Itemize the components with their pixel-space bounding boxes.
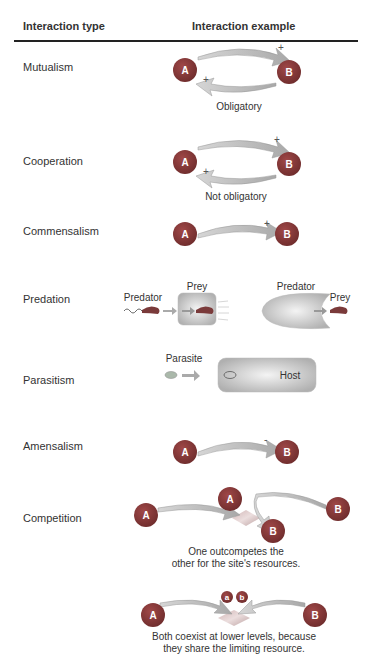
mutualism-diagram: A B + + Obligatory bbox=[173, 42, 301, 112]
svg-text:+: + bbox=[203, 166, 209, 177]
svg-text:+: + bbox=[278, 42, 284, 53]
svg-text:Predator: Predator bbox=[277, 281, 316, 292]
svg-text:A: A bbox=[181, 229, 188, 240]
svg-text:A: A bbox=[226, 494, 233, 505]
cooperation-diagram: A B + + Not obligatory bbox=[173, 134, 301, 202]
svg-text:Host: Host bbox=[280, 370, 301, 381]
svg-text:Both coexist at lower levels,: Both coexist at lower levels, because bbox=[152, 631, 316, 642]
commensalism-diagram: A B + bbox=[173, 218, 299, 246]
predation-diagram: Predator Prey Predator Prey bbox=[124, 281, 350, 329]
svg-text:Prey: Prey bbox=[187, 281, 208, 292]
competition-coexist-diagram: a b A B Both coexist at lower levels, be… bbox=[141, 591, 327, 654]
svg-text:A: A bbox=[181, 65, 188, 76]
svg-text:they share the limiting resour: they share the limiting resource. bbox=[163, 643, 305, 654]
svg-text:A: A bbox=[149, 610, 156, 621]
svg-text:A: A bbox=[142, 510, 149, 521]
svg-text:B: B bbox=[283, 229, 290, 240]
svg-text:Obligatory: Obligatory bbox=[216, 101, 262, 112]
svg-text:B: B bbox=[269, 526, 276, 537]
svg-text:B: B bbox=[311, 610, 318, 621]
svg-text:B: B bbox=[334, 504, 341, 515]
svg-text:A: A bbox=[181, 447, 188, 458]
svg-text:b: b bbox=[240, 593, 245, 602]
interaction-diagrams: A B + + Obligatory A B + + Not obligator… bbox=[0, 0, 370, 660]
competition-outcompete-diagram: A A B B One outcompetes the other for th… bbox=[134, 487, 350, 569]
svg-text:Prey: Prey bbox=[330, 292, 351, 303]
svg-text:B: B bbox=[283, 447, 290, 458]
parasitism-diagram: Parasite Host bbox=[165, 353, 316, 392]
svg-text:Not obligatory: Not obligatory bbox=[205, 191, 267, 202]
svg-text:-: - bbox=[264, 434, 267, 445]
amensalism-diagram: A B - bbox=[173, 434, 299, 464]
svg-text:Parasite: Parasite bbox=[166, 353, 203, 364]
svg-text:B: B bbox=[285, 67, 292, 78]
svg-text:a: a bbox=[225, 593, 230, 602]
svg-text:A: A bbox=[181, 157, 188, 168]
svg-text:+: + bbox=[203, 74, 209, 85]
svg-text:One outcompetes the: One outcompetes the bbox=[188, 546, 284, 557]
svg-text:B: B bbox=[285, 159, 292, 170]
svg-text:other for the site's resources: other for the site's resources. bbox=[172, 558, 301, 569]
svg-text:+: + bbox=[264, 218, 270, 229]
svg-text:Predator: Predator bbox=[124, 292, 163, 303]
svg-text:+: + bbox=[274, 134, 280, 145]
